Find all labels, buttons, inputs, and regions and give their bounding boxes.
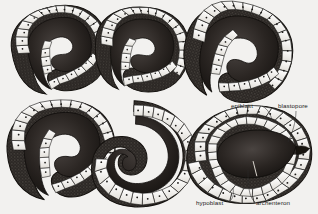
label-epiblast: epiblast	[231, 102, 253, 109]
gastrulation-figure: epiblast blastopore hypoblast archentero…	[0, 0, 318, 214]
label-archenteron: archenteron	[256, 199, 291, 206]
illustration-plate: epiblast blastopore hypoblast archentero…	[0, 0, 318, 214]
label-hypoblast: hypoblast	[196, 199, 224, 206]
label-blastopore: blastopore	[278, 102, 308, 109]
